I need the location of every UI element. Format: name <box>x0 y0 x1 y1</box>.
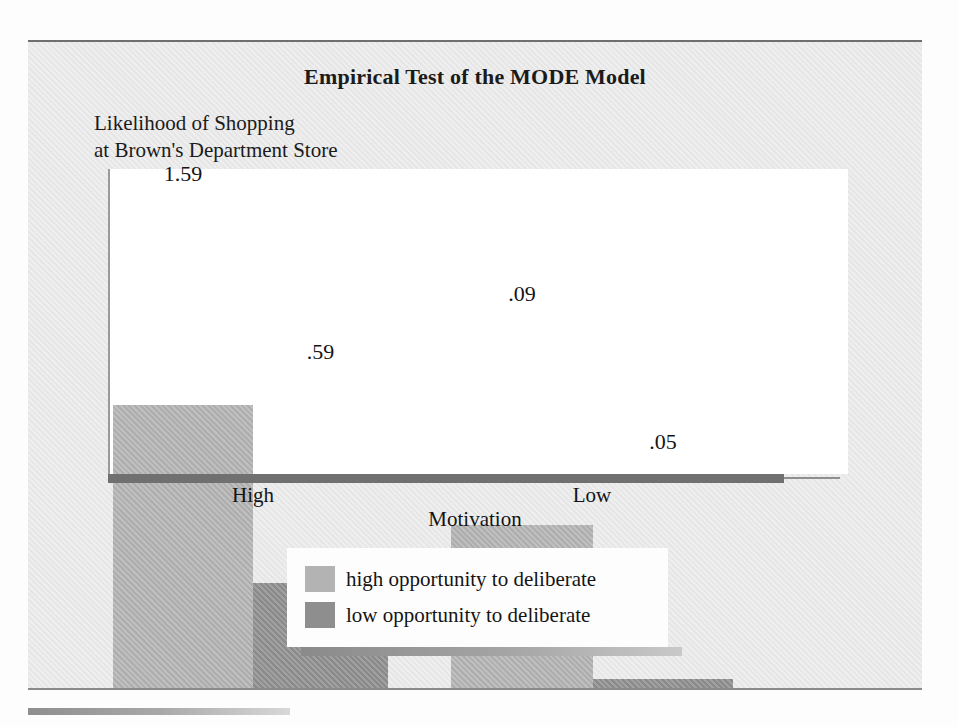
y-axis-label-line-1: Likelihood of Shopping <box>94 110 337 137</box>
x-tick-label-high: High <box>183 483 323 508</box>
legend-shadow <box>301 647 682 656</box>
x-tick-label-low: Low <box>521 483 663 508</box>
chart-legend: high opportunity to deliberate low oppor… <box>287 548 668 647</box>
legend-item-high-opportunity: high opportunity to deliberate <box>305 561 668 597</box>
bar-value-high-low-opportunity: .59 <box>253 339 388 365</box>
bar-value-low-low-opportunity: .05 <box>593 429 733 455</box>
y-axis-line <box>108 169 110 476</box>
y-axis-label-line-2: at Brown's Department Store <box>94 137 337 164</box>
x-axis-baseline-extension <box>784 477 840 479</box>
bar-high-high-opportunity <box>113 405 253 688</box>
bar-value-high-high-opportunity: 1.59 <box>113 161 253 187</box>
chart-title: Empirical Test of the MODE Model <box>28 64 922 90</box>
y-axis-label: Likelihood of Shopping at Brown's Depart… <box>94 110 337 164</box>
legend-label-low-opportunity: low opportunity to deliberate <box>346 603 590 628</box>
legend-label-high-opportunity: high opportunity to deliberate <box>346 567 596 592</box>
legend-swatch-dark <box>305 602 335 628</box>
bar-low-low-opportunity <box>593 679 733 688</box>
figure-panel: Empirical Test of the MODE Model Likelih… <box>28 40 922 690</box>
legend-swatch-light <box>305 566 335 592</box>
bar-value-low-high-opportunity: .09 <box>451 281 593 307</box>
x-axis-label: Motivation <box>28 507 922 532</box>
x-axis-baseline <box>108 474 784 483</box>
bottom-accent-bar <box>28 708 290 715</box>
legend-item-low-opportunity: low opportunity to deliberate <box>305 597 668 633</box>
